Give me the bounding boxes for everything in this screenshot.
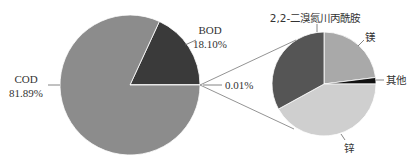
label-bod-name: BOD <box>198 24 221 36</box>
secondary-pie <box>272 32 376 136</box>
label-zn: 锌 <box>344 142 355 154</box>
label-dbnpa: 2,2-二溴氮川丙酰胺 <box>270 12 361 24</box>
label-bod-pct: 18.10% <box>193 38 227 50</box>
label-other-pct: 0.01% <box>225 79 253 91</box>
pie-of-pie-chart: COD 81.89% BOD 18.10% 0.01% 2,2-二溴氮川丙酰胺 … <box>0 0 414 162</box>
label-cod-pct: 81.89% <box>9 87 43 99</box>
label-other: 其他 <box>386 74 407 86</box>
label-cod-name: COD <box>14 73 37 85</box>
label-mg: 镁 <box>365 31 376 43</box>
leader-zn <box>341 134 345 140</box>
main-pie <box>60 15 200 155</box>
leader-mg <box>358 40 364 46</box>
